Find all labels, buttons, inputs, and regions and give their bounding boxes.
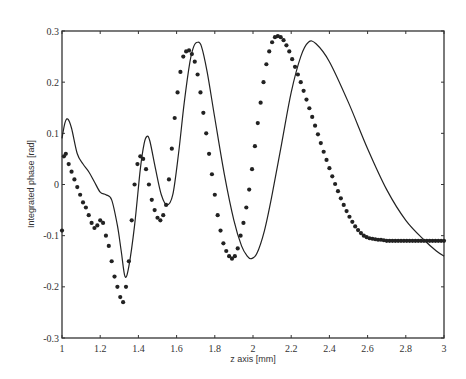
data-point	[244, 205, 248, 209]
data-point	[264, 62, 268, 66]
data-point	[279, 35, 283, 39]
data-point	[261, 80, 265, 84]
data-point	[442, 239, 446, 243]
data-point	[132, 182, 136, 186]
y-tick-label: -0.1	[43, 230, 59, 241]
data-point	[316, 132, 320, 136]
data-point	[201, 111, 205, 115]
x-tick-label: 1.4	[132, 343, 145, 354]
data-point	[181, 54, 185, 58]
series-markers-dots	[60, 34, 446, 304]
data-point	[299, 80, 303, 84]
data-point	[161, 213, 165, 217]
data-point	[170, 147, 174, 151]
data-point	[319, 141, 323, 145]
data-point	[322, 150, 326, 154]
data-point	[327, 166, 331, 170]
data-point	[281, 38, 285, 42]
x-tick-label: 2.2	[285, 343, 298, 354]
data-point	[124, 285, 128, 289]
data-point	[330, 174, 334, 178]
data-point	[313, 124, 317, 128]
data-point	[72, 177, 76, 181]
plot-frame	[62, 31, 444, 338]
data-point	[112, 275, 116, 279]
data-point	[107, 244, 111, 248]
data-point	[153, 208, 157, 212]
data-point	[118, 295, 122, 299]
data-point	[290, 57, 294, 61]
data-point	[144, 167, 148, 171]
data-point	[356, 228, 360, 232]
data-point	[178, 70, 182, 74]
data-point	[218, 228, 222, 232]
data-point	[347, 215, 351, 219]
data-point	[241, 221, 245, 225]
data-point	[115, 285, 119, 289]
data-point	[158, 218, 162, 222]
data-point	[336, 189, 340, 193]
data-point	[147, 182, 151, 186]
y-tick-label: 0.1	[47, 128, 60, 139]
data-point	[324, 158, 328, 162]
data-point	[267, 49, 271, 53]
data-point	[90, 221, 94, 225]
data-point	[130, 218, 134, 222]
x-tick-label: 2.6	[361, 343, 374, 354]
data-point	[175, 90, 179, 94]
data-point	[127, 259, 131, 263]
y-tick-label: -0.3	[43, 333, 59, 344]
data-point	[233, 254, 237, 258]
chart: 11.21.41.61.822.22.42.62.83 0.30.20.10-0…	[0, 0, 466, 379]
data-point	[310, 115, 314, 119]
data-point	[207, 152, 211, 156]
data-point	[344, 209, 348, 213]
data-point	[164, 203, 168, 207]
data-point	[302, 89, 306, 93]
data-point	[296, 72, 300, 76]
data-point	[78, 193, 82, 197]
data-point	[247, 188, 251, 192]
x-tick-label: 1	[60, 343, 65, 354]
data-point	[270, 40, 274, 44]
data-point	[141, 157, 145, 161]
data-point	[60, 228, 64, 232]
data-point	[339, 196, 343, 200]
data-point	[75, 185, 79, 189]
data-point	[84, 205, 88, 209]
data-point	[238, 234, 242, 238]
y-tick-label: 0.2	[47, 77, 60, 88]
data-point	[224, 249, 228, 253]
data-point	[353, 224, 357, 228]
data-point	[67, 162, 71, 166]
data-point	[304, 97, 308, 101]
x-axis-title: z axis [mm]	[230, 354, 276, 364]
data-point	[196, 72, 200, 76]
data-point	[104, 234, 108, 238]
y-axis-title: Integrated phase [rad]	[26, 140, 36, 228]
series-layer	[60, 34, 446, 304]
data-point	[173, 116, 177, 120]
data-point	[121, 300, 125, 304]
y-tick-label: 0.3	[47, 26, 60, 37]
data-point	[253, 144, 257, 148]
data-point	[95, 223, 99, 227]
data-point	[342, 203, 346, 207]
data-point	[87, 213, 91, 217]
data-point	[64, 152, 68, 156]
data-point	[135, 162, 139, 166]
data-point	[221, 241, 225, 245]
data-point	[213, 193, 217, 197]
y-tick-label: -0.2	[43, 281, 59, 292]
x-tick-label: 1.8	[209, 343, 222, 354]
data-point	[236, 246, 240, 250]
x-tick-label: 1.2	[94, 343, 107, 354]
data-point	[167, 177, 171, 181]
x-tick-label: 2.8	[400, 343, 413, 354]
data-point	[110, 259, 114, 263]
data-point	[284, 43, 288, 47]
data-point	[333, 182, 337, 186]
data-point	[216, 213, 220, 217]
data-point	[190, 52, 194, 56]
data-point	[210, 172, 214, 176]
